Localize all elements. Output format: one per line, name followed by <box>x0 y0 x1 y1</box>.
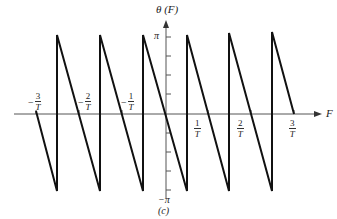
phase-sawtooth-line <box>36 32 294 191</box>
tick-denominator: T <box>195 129 200 139</box>
tick-numerator: 2 <box>85 92 92 102</box>
minus-sign: − <box>78 97 84 108</box>
y-tick-neg-pi: −π <box>158 195 170 205</box>
tick-numerator: 2 <box>237 119 244 129</box>
tick-numerator: 3 <box>35 92 42 102</box>
y-axis-arrow-icon <box>163 20 169 28</box>
tick-numerator: 3 <box>289 119 296 129</box>
x-tick-label-pos3: 3T <box>289 119 296 139</box>
x-axis-arrow-icon <box>314 111 322 117</box>
x-tick-label-neg1: − 1T <box>121 92 134 112</box>
phase-plot <box>0 0 337 219</box>
x-tick-label-neg3: − 3T <box>28 92 41 112</box>
y-axis-label: θ (F) <box>156 4 178 15</box>
y-tick-pi: π <box>154 31 159 41</box>
tick-denominator: T <box>128 102 133 112</box>
figure-caption: (c) <box>158 206 169 216</box>
x-tick-label-pos2: 2T <box>237 119 244 139</box>
tick-denominator: T <box>238 129 243 139</box>
tick-denominator: T <box>290 129 295 139</box>
minus-sign: − <box>28 97 34 108</box>
tick-numerator: 1 <box>128 92 135 102</box>
x-tick-label-pos1: 1T <box>194 119 201 139</box>
minus-sign: − <box>121 97 127 108</box>
x-tick-label-neg2: − 2T <box>78 92 91 112</box>
tick-numerator: 1 <box>194 119 201 129</box>
x-axis-label: F <box>326 108 333 119</box>
tick-denominator: T <box>35 102 40 112</box>
tick-denominator: T <box>85 102 90 112</box>
